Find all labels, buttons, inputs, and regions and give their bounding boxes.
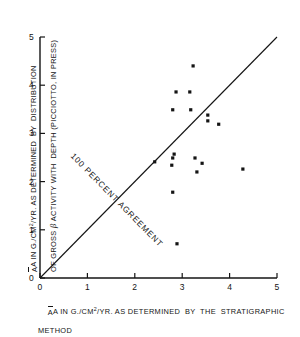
data-point (171, 156, 174, 159)
data-point (193, 156, 196, 159)
data-point (241, 167, 244, 170)
data-point (153, 160, 156, 163)
data-point (206, 119, 209, 122)
y-axis-label-text-4: ACTIVITY WITH DEPTH (PICCIOTTO, IN PRESS… (49, 40, 58, 224)
data-point (201, 162, 204, 165)
x-tick-label: 5 (275, 282, 280, 292)
data-point (188, 90, 191, 93)
y-axis-label: AA IN G./CM2/YR. AS DETERMINED BY DISTRI… (18, 36, 68, 286)
data-point (206, 113, 209, 116)
data-point (217, 123, 220, 126)
data-point (174, 90, 177, 93)
data-point (171, 191, 174, 194)
data-point (195, 170, 198, 173)
x-tick-label: 3 (180, 282, 185, 292)
data-point (173, 153, 176, 156)
data-point (189, 108, 192, 111)
data-point (175, 242, 178, 245)
x-axis-label: AA IN G./CM2/YR. AS DETERMINED BY THE ST… (38, 296, 300, 337)
y-axis-label-overbar-a: A (30, 267, 39, 272)
x-tick-label: 2 (132, 282, 137, 292)
y-axis-label-text-2: /YR. AS DETERMINED BY DISTRIBUTION (30, 65, 39, 223)
beta-symbol: β (48, 224, 58, 229)
y-axis-label-wrapper: AA IN G./CM2/YR. AS DETERMINED BY DISTRI… (18, 36, 40, 286)
data-point (192, 64, 195, 67)
y-axis-label-text-3: OF GROSS (49, 228, 58, 272)
y-axis-label-text-1: A IN G./CM (30, 226, 39, 266)
data-point (171, 108, 174, 111)
data-point (170, 164, 173, 167)
x-axis-label-text-2: /YR. AS DETERMINED BY THE STRATIGRAPHIC (97, 308, 285, 317)
x-tick-label: 4 (227, 282, 232, 292)
x-axis-label-overbar-a: A (48, 308, 53, 317)
x-tick-label: 1 (85, 282, 90, 292)
data-points-group (153, 64, 244, 245)
x-axis-label-text-1: A IN G./CM (53, 308, 94, 317)
x-axis-label-line2: METHOD (38, 326, 300, 335)
y-axis-label-exponent: 2 (28, 223, 34, 226)
